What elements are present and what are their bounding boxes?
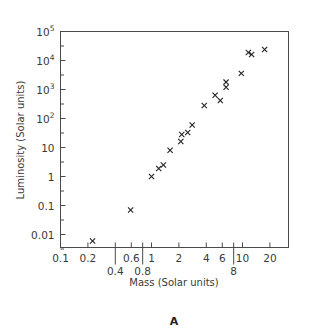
data-point-x-marker (223, 79, 228, 84)
data-point-x-marker (262, 47, 267, 52)
data-points (90, 47, 267, 244)
data-point-x-marker (185, 130, 190, 135)
x-tick-label-lower: 0.4 (107, 265, 124, 277)
y-tick-label: 102 (36, 111, 54, 125)
x-tick-label: 1 (148, 252, 155, 264)
plot-area-border (61, 32, 289, 248)
data-point-x-marker (167, 148, 172, 153)
data-point-x-marker (161, 162, 166, 167)
x-tick-label: 0.6 (123, 252, 140, 264)
y-tick-label: 105 (36, 24, 54, 38)
y-tick-label: 1 (48, 171, 55, 183)
y-tick-label: 104 (36, 53, 54, 67)
data-point-x-marker (128, 207, 133, 212)
y-tick-label: 103 (36, 82, 54, 96)
data-point-x-marker (213, 93, 218, 98)
y-tick-label: 0.1 (38, 200, 55, 212)
x-tick-label: 20 (263, 252, 276, 264)
x-tick-label: 0.2 (80, 252, 97, 264)
y-tick-label: 0.01 (31, 229, 54, 241)
data-point-x-marker (179, 132, 184, 137)
x-tick-label: 0.1 (52, 252, 69, 264)
data-point-x-marker (239, 71, 244, 76)
y-axis-label: Luminosity (Solar units) (15, 81, 26, 200)
data-point-x-marker (156, 166, 161, 171)
x-tick-label: 10 (236, 252, 249, 264)
data-point-x-marker (90, 238, 95, 243)
x-tick-label-lower: 0.8 (134, 265, 151, 277)
y-tick-label: 10 (41, 142, 54, 154)
mass-luminosity-chart: 0.010.1110102103104105 0.10.20.612461020… (0, 0, 309, 328)
data-point-x-marker (149, 174, 154, 179)
data-point-x-marker (223, 85, 228, 90)
x-tick-label: 6 (219, 252, 226, 264)
x-tick-label-lower: 8 (230, 265, 237, 277)
panel-label: A (170, 315, 179, 328)
data-point-x-marker (190, 122, 195, 127)
x-axis-label: Mass (Solar units) (129, 277, 219, 288)
data-point-x-marker (202, 103, 207, 108)
x-tick-label: 4 (203, 252, 210, 264)
data-point-x-marker (178, 139, 183, 144)
x-tick-label: 2 (176, 252, 183, 264)
data-point-x-marker (218, 98, 223, 103)
plot-frame (61, 32, 289, 248)
